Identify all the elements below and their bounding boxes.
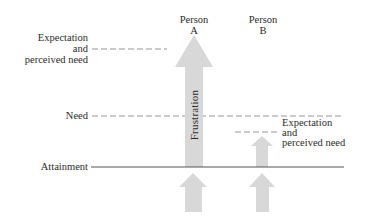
frustration-label: Frustration xyxy=(188,90,200,140)
person-a-letter: A xyxy=(180,25,209,36)
expectation-a-line3: perceived need xyxy=(25,54,88,65)
person-b-title: Person xyxy=(249,14,278,25)
attainment-label: Attainment xyxy=(41,161,88,172)
person-b-letter: B xyxy=(249,25,278,36)
need-label: Need xyxy=(66,110,88,121)
person-a-title: Person xyxy=(180,14,209,25)
person-a-label: Person A xyxy=(180,14,209,36)
expectation-b-line3: perceived need xyxy=(282,138,345,148)
frustration-diagram: Person A Person B Expectation and percei… xyxy=(0,0,368,223)
expectation-b-label: Expectation and perceived need xyxy=(282,118,345,148)
expectation-a-line1: Expectation xyxy=(25,32,88,43)
person-b-label: Person B xyxy=(249,14,278,36)
expectation-a-label: Expectation and perceived need xyxy=(25,32,88,65)
expectation-a-line2: and xyxy=(25,43,88,54)
